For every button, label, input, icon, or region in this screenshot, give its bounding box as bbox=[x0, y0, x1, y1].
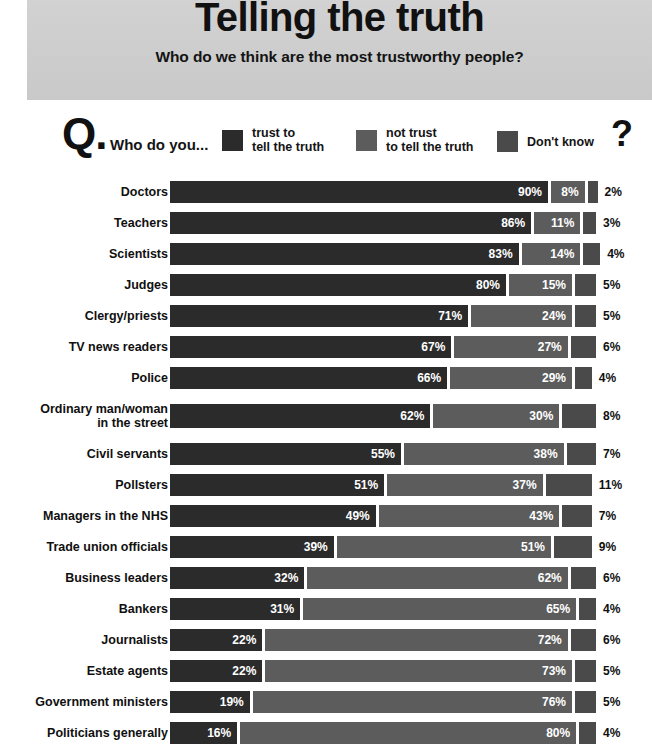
bar-value-dont-know: 6% bbox=[603, 571, 620, 585]
bar-track: 66%29%4% bbox=[170, 367, 652, 389]
bar-segment-dont-know bbox=[575, 305, 596, 327]
bar-segment-dont-know bbox=[554, 536, 592, 558]
bar-segment-dont-know bbox=[571, 336, 596, 358]
bar-value-not-trust: 73% bbox=[542, 664, 572, 678]
bar-value-dont-know: 4% bbox=[607, 247, 624, 261]
bar-value-dont-know: 7% bbox=[599, 509, 616, 523]
bar-value-not-trust: 62% bbox=[538, 571, 568, 585]
bar-row: Trade union officials39%51%9% bbox=[0, 535, 652, 559]
bar-segment-dont-know bbox=[575, 691, 596, 713]
bar-row-label: Managers in the NHS bbox=[0, 509, 168, 523]
bar-value-not-trust: 14% bbox=[550, 247, 580, 261]
bar-value-not-trust: 65% bbox=[546, 602, 576, 616]
bar-value-not-trust: 27% bbox=[538, 340, 568, 354]
bar-segment-dont-know bbox=[567, 443, 596, 465]
bar-value-not-trust: 80% bbox=[546, 726, 576, 740]
bar-row: Managers in the NHS49%43%7% bbox=[0, 504, 652, 528]
bar-segment-dont-know bbox=[583, 212, 596, 234]
legend-item-not-trust[interactable]: not trustto tell the truth bbox=[356, 126, 474, 154]
bar-segment-dont-know bbox=[575, 660, 596, 682]
bar-value-trust: 67% bbox=[421, 340, 451, 354]
bar-segment-trust: 83% bbox=[170, 243, 519, 265]
bar-value-dont-know: 4% bbox=[603, 726, 620, 740]
bar-segment-not-trust: 29% bbox=[450, 367, 572, 389]
bar-value-not-trust: 11% bbox=[551, 216, 580, 230]
bar-value-trust: 32% bbox=[274, 571, 304, 585]
bar-track: 19%76%5% bbox=[170, 691, 652, 713]
bar-value-dont-know: 5% bbox=[603, 664, 620, 678]
bar-segment-trust: 86% bbox=[170, 212, 531, 234]
bar-row-label: Clergy/priests bbox=[0, 309, 168, 323]
bar-segment-trust: 32% bbox=[170, 567, 304, 589]
bar-row-label: Estate agents bbox=[0, 664, 168, 678]
bar-track: 39%51%9% bbox=[170, 536, 652, 558]
bar-track: 55%38%7% bbox=[170, 443, 652, 465]
bar-value-not-trust: 76% bbox=[542, 695, 572, 709]
bar-row-label: Trade union officials bbox=[0, 540, 168, 554]
bar-segment-not-trust: 62% bbox=[307, 567, 567, 589]
bar-segment-trust: 22% bbox=[170, 660, 262, 682]
bar-segment-not-trust: 43% bbox=[379, 505, 560, 527]
bar-row: Civil servants55%38%7% bbox=[0, 442, 652, 466]
bar-segment-trust: 71% bbox=[170, 305, 468, 327]
bar-row: Estate agents22%73%5% bbox=[0, 659, 652, 683]
bar-value-dont-know: 2% bbox=[605, 185, 622, 199]
bar-row: TV news readers67%27%6% bbox=[0, 335, 652, 359]
bar-value-dont-know: 7% bbox=[603, 447, 620, 461]
bar-track: 51%37%11% bbox=[170, 474, 652, 496]
bar-segment-dont-know bbox=[588, 181, 598, 203]
bar-segment-not-trust: 14% bbox=[522, 243, 581, 265]
bar-row: Ordinary man/woman in the street62%30%8% bbox=[0, 397, 652, 435]
bar-value-trust: 49% bbox=[346, 509, 376, 523]
bar-row: Clergy/priests71%24%5% bbox=[0, 304, 652, 328]
bar-segment-trust: 80% bbox=[170, 274, 506, 296]
bar-segment-dont-know bbox=[583, 243, 600, 265]
bar-value-dont-know: 5% bbox=[603, 695, 620, 709]
bar-segment-trust: 55% bbox=[170, 443, 401, 465]
bar-value-trust: 71% bbox=[438, 309, 468, 323]
bar-value-not-trust: 8% bbox=[561, 185, 584, 199]
bar-segment-trust: 19% bbox=[170, 691, 250, 713]
bar-value-trust: 22% bbox=[232, 633, 262, 647]
bar-row: Judges80%15%5% bbox=[0, 273, 652, 297]
bar-track: 90%8%2% bbox=[170, 181, 652, 203]
bar-segment-not-trust: 73% bbox=[265, 660, 572, 682]
legend-item-trust[interactable]: trust totell the truth bbox=[222, 126, 324, 154]
bar-segment-dont-know bbox=[571, 629, 596, 651]
bar-value-dont-know: 5% bbox=[603, 309, 620, 323]
legend-swatch-not-trust-icon bbox=[356, 130, 377, 151]
bar-track: 67%27%6% bbox=[170, 336, 652, 358]
bar-row-label: TV news readers bbox=[0, 340, 168, 354]
bar-segment-trust: 62% bbox=[170, 404, 430, 428]
bar-value-trust: 16% bbox=[207, 726, 237, 740]
bar-value-not-trust: 15% bbox=[542, 278, 572, 292]
legend-swatch-dont-know-icon bbox=[497, 131, 518, 152]
bar-row-label: Pollsters bbox=[0, 478, 168, 492]
bar-value-not-trust: 72% bbox=[538, 633, 568, 647]
bar-value-not-trust: 37% bbox=[513, 478, 543, 492]
bar-segment-trust: 49% bbox=[170, 505, 376, 527]
bar-value-trust: 51% bbox=[354, 478, 384, 492]
bar-track: 22%72%6% bbox=[170, 629, 652, 651]
bar-value-dont-know: 8% bbox=[603, 409, 620, 423]
bar-segment-dont-know bbox=[579, 598, 596, 620]
bar-segment-not-trust: 51% bbox=[337, 536, 551, 558]
bar-track: 62%30%8% bbox=[170, 404, 652, 428]
bar-segment-not-trust: 65% bbox=[303, 598, 576, 620]
bar-row-label: Ordinary man/woman in the street bbox=[0, 402, 168, 430]
bar-row-label: Politicians generally bbox=[0, 726, 168, 740]
bar-value-dont-know: 4% bbox=[603, 602, 620, 616]
bar-track: 32%62%6% bbox=[170, 567, 652, 589]
legend-item-dont-know[interactable]: Don't know bbox=[497, 131, 594, 152]
bar-segment-trust: 51% bbox=[170, 474, 384, 496]
bar-row-label: Journalists bbox=[0, 633, 168, 647]
bar-row-label: Bankers bbox=[0, 602, 168, 616]
bar-track: 71%24%5% bbox=[170, 305, 652, 327]
bar-row-label: Business leaders bbox=[0, 571, 168, 585]
bar-segment-dont-know bbox=[575, 367, 592, 389]
bar-value-not-trust: 24% bbox=[542, 309, 572, 323]
bar-value-dont-know: 9% bbox=[599, 540, 616, 554]
bar-value-trust: 83% bbox=[489, 247, 519, 261]
bar-segment-dont-know bbox=[562, 505, 591, 527]
bar-value-trust: 31% bbox=[270, 602, 300, 616]
